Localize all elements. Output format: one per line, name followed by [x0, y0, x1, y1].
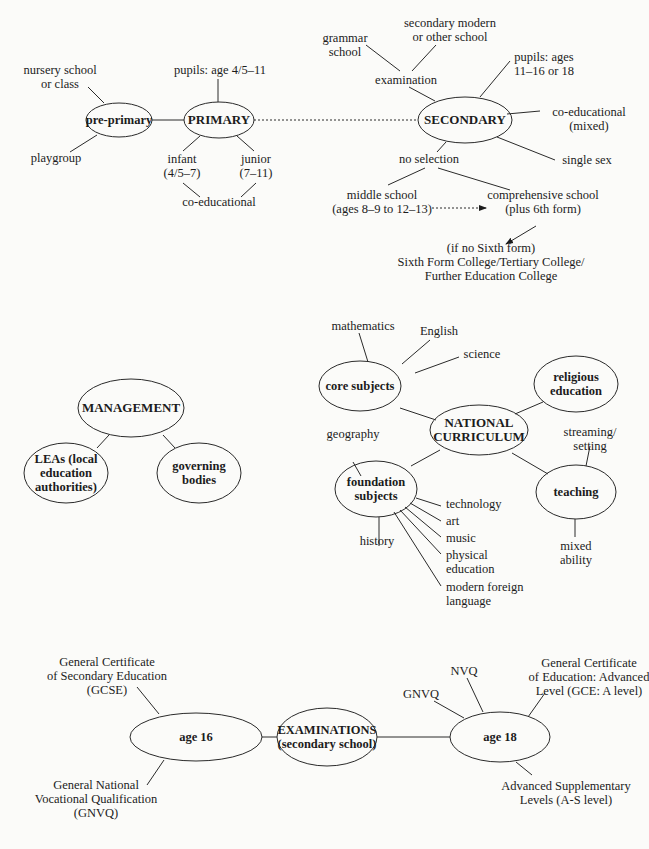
node-pre-primary: pre-primary	[86, 113, 152, 127]
label-gnvq-18: GNVQ	[403, 687, 439, 701]
label-line: (ages 8–9 to 12–13)	[332, 202, 432, 216]
node-examinations: EXAMINATIONS (secondary school)	[277, 723, 376, 751]
label-line: middle school	[332, 188, 432, 202]
label-nursery: nursery school or class	[23, 63, 96, 91]
label-line: nursery school	[23, 63, 96, 77]
label-comprehensive-school: comprehensive school (plus 6th form)	[487, 188, 598, 216]
label-line: (if no Sixth form)	[398, 241, 585, 255]
label-english: English	[420, 324, 458, 338]
label-as-level: Advanced Supplementary Levels (A-S level…	[501, 779, 630, 807]
label-line: or class	[23, 77, 96, 91]
label-mathematics: mathematics	[331, 319, 394, 333]
label-line: (GNVQ)	[35, 806, 157, 820]
node-governing-bodies: governing bodies	[172, 459, 225, 487]
label-line: Levels (A-S level)	[501, 793, 630, 807]
node-core-subjects: core subjects	[326, 379, 395, 393]
label-line: education	[550, 384, 602, 398]
label-line: (mixed)	[552, 119, 626, 133]
label-line: governing	[172, 459, 225, 473]
label-line: Further Education College	[398, 269, 585, 283]
label-line: (secondary school)	[277, 737, 376, 751]
label-line: pupils: ages	[514, 50, 574, 64]
label-line: General Certificate	[47, 655, 167, 669]
label-art: art	[446, 514, 459, 528]
node-age-16: age 16	[179, 730, 213, 744]
label-co-educational-secondary: co-educational (mixed)	[552, 105, 626, 133]
label-line: mixed	[560, 539, 592, 553]
label-secondary-modern: secondary modern or other school	[404, 16, 496, 44]
label-modern-foreign-language: modern foreign language	[446, 580, 523, 608]
node-primary: PRIMARY	[188, 113, 250, 127]
label-science: science	[464, 347, 501, 361]
node-teaching: teaching	[553, 485, 598, 499]
label-line: of Secondary Education	[47, 669, 167, 683]
label-secondary-ages: pupils: ages 11–16 or 18	[514, 50, 574, 78]
label-history: history	[360, 534, 395, 548]
label-infant: infant (4/5–7)	[164, 152, 201, 180]
label-examination: examination	[375, 73, 437, 87]
label-line: junior	[240, 152, 273, 166]
label-line: authorities)	[35, 480, 98, 494]
label-line: foundation	[347, 475, 405, 489]
label-line: language	[446, 594, 523, 608]
label-line: subjects	[347, 489, 405, 503]
label-line: infant	[164, 152, 201, 166]
label-line: General Certificate	[529, 656, 649, 670]
label-junior: junior (7–11)	[240, 152, 273, 180]
label-physical-education: physical education	[446, 548, 495, 576]
label-line: or other school	[404, 30, 496, 44]
label-middle-school: middle school (ages 8–9 to 12–13)	[332, 188, 432, 216]
label-line: Vocational Qualification	[35, 792, 157, 806]
label-line: co-educational	[552, 105, 626, 119]
node-religious-education: religious education	[550, 370, 602, 398]
label-streaming-setting: streaming/ setting	[564, 425, 617, 453]
label-line: religious	[550, 370, 602, 384]
label-gnvq-16: General National Vocational Qualificatio…	[35, 778, 157, 820]
label-line: secondary modern	[404, 16, 496, 30]
label-line: (GCSE)	[47, 683, 167, 697]
label-geography: geography	[327, 427, 380, 441]
node-national-curriculum: NATIONAL CURRICULUM	[433, 416, 525, 444]
label-gcse: General Certificate of Secondary Educati…	[47, 655, 167, 697]
label-line: education	[35, 466, 98, 480]
label-nvq: NVQ	[450, 664, 477, 678]
label-line: of Education: Advanced	[529, 670, 649, 684]
label-technology: technology	[446, 497, 502, 511]
label-line: ability	[560, 553, 592, 567]
label-line: Level (GCE: A level)	[529, 684, 649, 698]
label-line: modern foreign	[446, 580, 523, 594]
label-line: education	[446, 562, 495, 576]
label-music: music	[446, 531, 476, 545]
label-single-sex: single sex	[562, 153, 612, 167]
label-mixed-ability: mixed ability	[560, 539, 592, 567]
node-leas: LEAs (local education authorities)	[35, 452, 98, 494]
node-secondary: SECONDARY	[424, 113, 506, 127]
label-line: physical	[446, 548, 495, 562]
label-line: setting	[564, 439, 617, 453]
label-sixth-form-college: (if no Sixth form) Sixth Form College/Te…	[398, 241, 585, 283]
node-management: MANAGEMENT	[82, 401, 180, 415]
label-line: (plus 6th form)	[487, 202, 598, 216]
label-line: school	[322, 45, 367, 59]
label-line: Advanced Supplementary	[501, 779, 630, 793]
label-line: Sixth Form College/Tertiary College/	[398, 255, 585, 269]
label-line: NATIONAL	[433, 416, 525, 430]
label-line: CURRICULUM	[433, 430, 525, 444]
label-line: General National	[35, 778, 157, 792]
label-line: comprehensive school	[487, 188, 598, 202]
label-grammar-school: grammar school	[322, 31, 367, 59]
label-line: (4/5–7)	[164, 166, 201, 180]
label-line: streaming/	[564, 425, 617, 439]
label-co-educational-primary: co-educational	[182, 195, 256, 209]
label-line: bodies	[172, 473, 225, 487]
label-line: (7–11)	[240, 166, 273, 180]
node-foundation-subjects: foundation subjects	[347, 475, 405, 503]
label-primary-ages: pupils: age 4/5–11	[174, 63, 266, 77]
label-line: 11–16 or 18	[514, 64, 574, 78]
label-line: grammar	[322, 31, 367, 45]
label-gce-a-level: General Certificate of Education: Advanc…	[529, 656, 649, 698]
node-age-18: age 18	[483, 730, 517, 744]
label-playgroup: playgroup	[31, 151, 82, 165]
label-line: EXAMINATIONS	[277, 723, 376, 737]
